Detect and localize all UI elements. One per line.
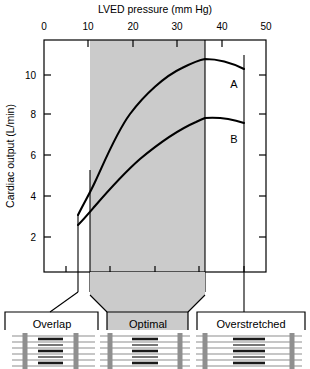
curve-label-a: A <box>230 78 238 90</box>
x-tick-label-10: 10 <box>82 21 94 32</box>
y-axis-ticks-right <box>259 75 266 237</box>
y-tick-label-2: 2 <box>30 232 36 243</box>
x-tick-label-50: 50 <box>260 21 272 32</box>
zone-label-overlap: Overlap <box>33 318 72 330</box>
x-tick-label-40: 40 <box>216 21 228 32</box>
zone-label-overstretched: Overstretched <box>216 318 285 330</box>
y-axis-title: Cardiac output (L/min) <box>4 104 16 208</box>
y-tick-label-4: 4 <box>30 191 36 202</box>
curve-label-b: B <box>230 133 237 145</box>
sarcomere-diagram-overstretched <box>196 333 302 369</box>
x-tick-label-20: 20 <box>127 21 139 32</box>
x-axis-title: LVED pressure (mm Hg) <box>98 3 212 15</box>
y-tick-label-8: 8 <box>30 109 36 120</box>
y-tick-label-10: 10 <box>25 70 37 81</box>
sarcomere-diagram-overlap <box>12 333 95 369</box>
y-axis-ticks <box>44 75 51 237</box>
x-tick-label-0: 0 <box>41 21 47 32</box>
zone-label-optimal: Optimal <box>129 318 167 330</box>
cardiac-function-figure: LVED pressure (mm Hg) Cardiac output (L/… <box>0 0 310 369</box>
x-tick-label-30: 30 <box>171 21 183 32</box>
y-tick-label-6: 6 <box>30 150 36 161</box>
sarcomere-diagram-optimal <box>100 333 190 369</box>
